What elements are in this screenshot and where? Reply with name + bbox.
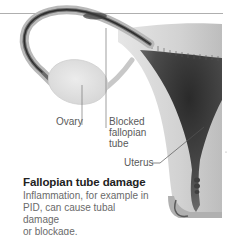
caption-body-line2: PID, can cause tubal damage xyxy=(23,202,153,226)
caption-body-line1: Inflammation, for example in xyxy=(23,190,153,202)
ovary xyxy=(44,54,112,110)
caption-body-line3: or blockage. xyxy=(23,226,153,235)
caption-title: Fallopian tube damage xyxy=(23,176,153,189)
ovary-label: Ovary xyxy=(56,116,83,127)
caption-body: Inflammation, for example in PID, can ca… xyxy=(23,190,153,235)
blocked-tube-label-line2: fallopian xyxy=(109,127,146,138)
caption: Fallopian tube damage Inflammation, for … xyxy=(23,176,153,235)
blocked-fallopian-tube-label: Blocked fallopian tube xyxy=(109,116,146,149)
blocked-tube-label-line3: tube xyxy=(109,138,146,149)
uterus-label: Uterus xyxy=(124,157,153,168)
blocked-tube-label-line1: Blocked xyxy=(109,116,146,127)
